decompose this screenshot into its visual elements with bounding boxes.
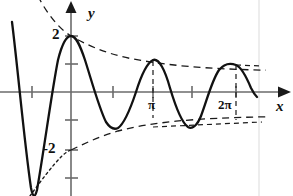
y-axis-arrow <box>66 1 77 13</box>
y-axis <box>66 1 77 196</box>
x-tick-label-pi: π <box>148 98 155 111</box>
y-axis-label: y <box>88 6 95 21</box>
y-tick-label-minus-2: -2 <box>43 141 56 156</box>
x-tick-label-two-pi: 2π <box>218 98 232 111</box>
y-tick-label-2: 2 <box>52 27 60 42</box>
damped-oscillation-figure: y x 2 -2 π 2π <box>0 0 293 196</box>
x-axis-arrow <box>278 87 291 98</box>
plot-canvas <box>0 0 293 196</box>
x-axis <box>0 87 291 98</box>
lower-envelope-curve <box>71 117 266 150</box>
guide-lower-horizontal <box>153 122 262 127</box>
x-axis-label: x <box>276 99 284 114</box>
